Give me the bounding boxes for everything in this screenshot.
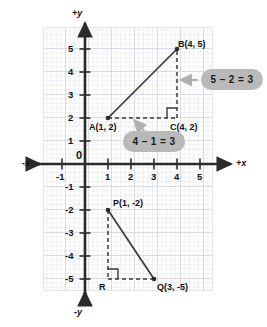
origin-label: 0: [76, 150, 82, 161]
x-tick-label-3: 3: [151, 172, 156, 182]
x-tick-label-2: 2: [128, 172, 133, 182]
callout-vertical-difference: 5 – 2 = 3: [201, 69, 263, 90]
x-tick-label--1: -1: [56, 172, 64, 182]
triangle-abc: [106, 47, 180, 121]
point-label-b: B(4, 5): [178, 40, 206, 49]
y-tick-label--1: -1: [65, 182, 73, 192]
y-tick-label-2: 2: [68, 113, 73, 123]
axis-label-positive-x: +x: [236, 159, 246, 168]
y-tick-label--5: -5: [65, 274, 73, 284]
right-angle-marker-r: [108, 269, 118, 279]
point-marker-p: [106, 208, 111, 213]
y-tick-label--2: -2: [65, 205, 73, 215]
point-label-r: R: [99, 283, 106, 292]
y-tick-label-4: 4: [68, 67, 73, 77]
triangle-pqr: [106, 208, 157, 282]
axis-label-negative-y: -y: [74, 308, 82, 317]
x-tick-label-5: 5: [197, 172, 202, 182]
right-angle-marker-c: [167, 108, 177, 118]
y-tick-label-5: 5: [68, 44, 73, 54]
point-marker-q: [152, 277, 157, 282]
axis-label-negative-x: -x: [22, 159, 30, 168]
point-label-a: A(1, 2): [89, 123, 117, 132]
callout-horizontal-difference: 4 – 1 = 3: [123, 131, 185, 152]
point-label-p: P(1, -2): [113, 199, 143, 208]
y-tick-label--4: -4: [65, 251, 73, 261]
graph-overlay: [0, 0, 267, 327]
y-tick-label--3: -3: [65, 228, 73, 238]
point-label-q: Q(3, -5): [157, 283, 188, 292]
y-tick-label-3: 3: [68, 90, 73, 100]
coordinate-plane-diagram: -x +x +y -y 0 -1 1 2 3 4 5 5 4 3 2 1 -1 …: [0, 0, 267, 327]
x-tick-label-1: 1: [105, 172, 110, 182]
y-tick-label-1: 1: [68, 136, 73, 146]
axis-label-positive-y: +y: [72, 9, 82, 18]
point-marker-a: [106, 116, 111, 121]
x-tick-label-4: 4: [174, 172, 179, 182]
